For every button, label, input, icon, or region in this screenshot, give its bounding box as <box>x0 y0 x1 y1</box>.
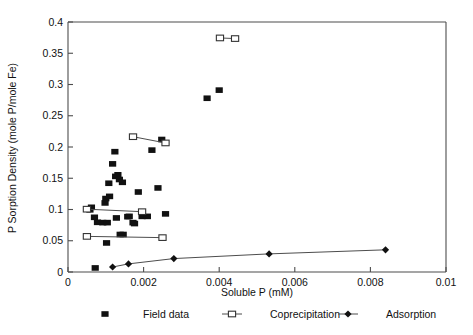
data-point-field <box>109 161 116 167</box>
data-point-field <box>131 221 138 227</box>
y-tick-labels: 00.050.10.150.20.250.30.350.4 <box>43 16 64 278</box>
data-point-adsorption <box>125 260 132 267</box>
y-tick-label: 0.25 <box>43 109 64 121</box>
legend-marker-field-data <box>101 311 108 317</box>
data-point-field <box>126 214 133 220</box>
data-point-field <box>154 185 161 191</box>
data-point-field <box>135 189 142 195</box>
y-tick-label: 0 <box>57 266 63 278</box>
scatter-plot: 00.0020.0040.0060.0080.01 00.050.10.150.… <box>0 0 473 335</box>
adsorption-curve <box>113 250 386 267</box>
data-point-coprecipitation <box>83 234 90 240</box>
x-tick-label: 0.002 <box>130 276 156 288</box>
data-point-adsorption <box>265 250 272 257</box>
data-point-field <box>104 220 111 226</box>
series-field-data <box>86 87 222 270</box>
data-point-coprecipitation <box>231 36 238 42</box>
data-point-field <box>111 149 118 155</box>
data-point-field <box>91 215 98 221</box>
legend-label-coprecipitation: Coprecipitation <box>270 308 340 320</box>
legend-label-field-data: Field data <box>143 308 189 320</box>
data-point-coprecipitation <box>83 206 90 212</box>
x-tick-label: 0.01 <box>436 276 457 288</box>
data-point-adsorption <box>170 255 177 262</box>
data-point-field <box>148 147 155 153</box>
data-point-coprecipitation <box>129 134 136 140</box>
data-point-coprecipitation <box>216 35 223 41</box>
legend-marker-adsorption <box>344 310 351 317</box>
copre-connector <box>87 236 163 237</box>
legend: Field dataCoprecipitationAdsorption <box>101 308 436 320</box>
x-tick-label: 0 <box>65 276 71 288</box>
x-tick-label: 0.008 <box>357 276 383 288</box>
data-point-adsorption <box>382 246 389 253</box>
data-point-coprecipitation <box>159 235 166 241</box>
x-axis-label: Soluble P (mM) <box>221 286 293 298</box>
data-point-field <box>105 180 112 186</box>
y-tick-label: 0.4 <box>48 16 63 28</box>
y-tick-label: 0.35 <box>43 47 64 59</box>
data-point-field <box>204 95 211 101</box>
data-point-coprecipitation <box>138 209 145 215</box>
data-point-coprecipitation <box>162 140 169 146</box>
data-point-field <box>106 194 113 200</box>
series-adsorption <box>109 246 389 270</box>
data-point-field <box>162 211 169 217</box>
data-point-field <box>92 265 99 271</box>
y-tick-label: 0.2 <box>48 141 63 153</box>
data-point-field <box>113 215 120 221</box>
y-tick-label: 0.1 <box>48 203 63 215</box>
y-tick-label: 0.05 <box>43 234 64 246</box>
data-point-field <box>103 240 110 246</box>
copre-connector <box>87 209 142 212</box>
y-tick-label: 0.15 <box>43 172 64 184</box>
y-axis-label: P Sorption Density (mole P/mole Fe) <box>6 63 18 233</box>
data-series <box>83 35 389 271</box>
data-point-adsorption <box>109 263 116 270</box>
data-point-field <box>119 180 126 186</box>
legend-marker-coprecipitation <box>228 311 235 317</box>
chart-figure: 00.0020.0040.0060.0080.01 00.050.10.150.… <box>0 0 473 335</box>
data-point-field <box>216 87 223 93</box>
y-tick-label: 0.3 <box>48 78 63 90</box>
legend-label-adsorption: Adsorption <box>386 308 436 320</box>
